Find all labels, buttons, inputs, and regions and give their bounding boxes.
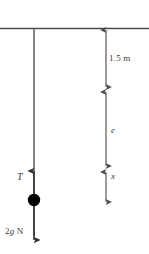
- label-weight: 2g N: [5, 227, 24, 236]
- label-natural-length: 1.5 m: [109, 54, 131, 63]
- label-tension: T: [17, 172, 23, 182]
- label-displacement: x: [111, 172, 115, 181]
- physics-diagram-canvas: 1.5 m e x T 2g N: [0, 0, 149, 254]
- diagram-vector-layer: [0, 0, 149, 254]
- particle-ball: [28, 194, 40, 206]
- label-weight-suffix: N: [14, 226, 23, 236]
- label-extension: e: [111, 126, 115, 135]
